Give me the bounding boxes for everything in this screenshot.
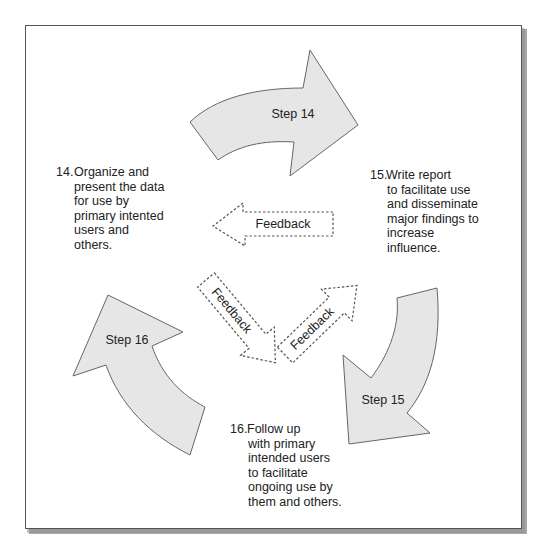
description-16-line: Follow up xyxy=(247,422,301,436)
description-14-line: Organize and xyxy=(74,165,149,179)
description-15-line: major findings to xyxy=(387,212,479,226)
description-14-line: primary intented xyxy=(74,209,164,223)
description-16-line: with primary xyxy=(247,437,316,451)
description-14-line: for use by xyxy=(74,194,130,208)
step-16-label: Step 16 xyxy=(105,333,148,347)
description-16-line: intended users xyxy=(248,451,330,465)
description-14-line: users and xyxy=(74,223,129,237)
description-14-line: present the data xyxy=(74,180,164,194)
description-16-number: 16. xyxy=(230,422,247,436)
description-15-line: increase xyxy=(387,226,434,240)
description-16-line: ongoing use by xyxy=(248,480,334,494)
description-16-line: them and others. xyxy=(248,495,342,509)
diagram-canvas: Step 14 Step 15 Step 16 Feedback Feedbac… xyxy=(0,0,552,560)
description-15-line: and disseminate xyxy=(387,197,478,211)
description-15-line: Write report xyxy=(386,168,452,182)
description-16-line: to facilitate xyxy=(248,466,308,480)
step-15-label: Step 15 xyxy=(361,393,404,407)
description-14-number: 14. xyxy=(56,165,73,179)
description-15-line: to facilitate use xyxy=(387,183,470,197)
step-14-label: Step 14 xyxy=(271,107,314,121)
feedback-left-label: Feedback xyxy=(256,217,312,231)
description-15-line: influence. xyxy=(387,241,441,255)
description-15-number: 15. xyxy=(370,168,387,182)
description-14-line: others. xyxy=(74,238,112,252)
